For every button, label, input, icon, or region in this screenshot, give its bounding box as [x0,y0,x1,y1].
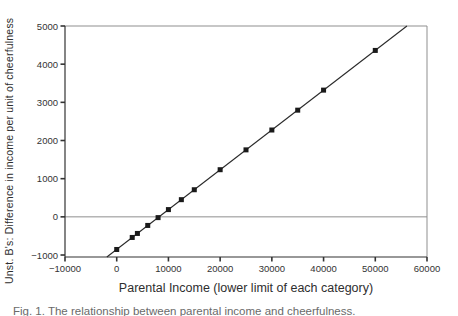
y-tick-label: 2000 [37,135,58,146]
data-point-marker [321,88,326,93]
x-tick-label: 50000 [362,263,388,274]
x-tick-label: 10000 [155,263,181,274]
data-point-marker [145,223,150,228]
x-tick-label: 30000 [259,263,285,274]
x-tick-label: −10000 [49,263,81,274]
scatter-chart: −1000010002000300040005000−1000001000020… [0,0,458,316]
data-point-marker [166,207,171,212]
x-tick-label: 60000 [414,263,440,274]
x-tick-label: 40000 [310,263,336,274]
data-point-marker [114,247,119,252]
y-tick-label: 5000 [37,21,58,32]
x-tick-label: 0 [114,263,119,274]
x-tick-label: 20000 [207,263,233,274]
data-point-marker [218,167,223,172]
figure-page: −1000010002000300040005000−1000001000020… [0,0,458,316]
y-tick-label: 0 [53,211,58,222]
data-point-marker [269,128,274,133]
data-point-marker [244,147,249,152]
y-tick-label: 4000 [37,59,58,70]
data-point-marker [156,215,161,220]
y-tick-label: 3000 [37,97,58,108]
figure-caption-clipped: Fig. 1. The relationship between parenta… [13,305,355,316]
y-tick-label: −1000 [31,250,58,261]
y-axis-title: Unst. B's: Difference in income per unit… [1,20,17,282]
data-point-marker [135,231,140,236]
fit-line [107,26,407,257]
data-point-marker [179,197,184,202]
data-point-marker [295,108,300,113]
data-point-marker [192,187,197,192]
data-point-marker [130,235,135,240]
data-point-marker [373,48,378,53]
x-axis-title: Parental Income (lower limit of each cat… [65,281,427,295]
y-tick-label: 1000 [37,173,58,184]
